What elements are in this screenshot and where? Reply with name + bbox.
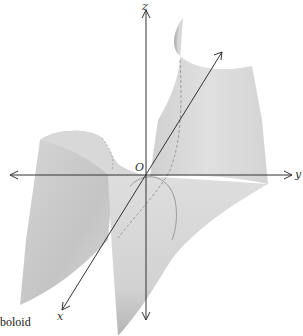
figure-caption: boloid (0, 316, 31, 328)
y-axis-label: y (295, 169, 301, 180)
z-axis-label: z (142, 1, 148, 12)
surface-front (108, 175, 268, 336)
saddle-surface-diagram (0, 0, 303, 336)
origin-label: O (135, 162, 144, 173)
hyperbolic-paraboloid-figure: z y x O boloid (0, 0, 303, 336)
surface-back-right (150, 18, 268, 184)
x-axis-label: x (57, 311, 63, 322)
